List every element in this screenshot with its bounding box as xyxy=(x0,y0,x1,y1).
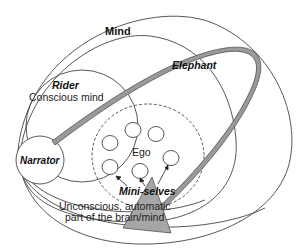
mind-model-diagram: Mind Elephant Rider Conscious mind Narra… xyxy=(0,0,304,248)
mini-self xyxy=(163,151,179,166)
mini-self xyxy=(125,123,141,138)
mini-self xyxy=(132,164,148,179)
mind-label: Mind xyxy=(105,25,131,37)
unconscious-label-line2: part of the brain/mind xyxy=(65,211,164,223)
rider-label: Rider xyxy=(52,79,80,91)
mini-selves-label: Mini-selves xyxy=(119,185,176,197)
elephant-label: Elephant xyxy=(172,59,217,71)
mini-self xyxy=(102,136,118,151)
mini-self xyxy=(102,160,118,175)
mini-self xyxy=(148,127,164,142)
ego-label: Ego xyxy=(132,146,151,158)
conscious-mind-label: Conscious mind xyxy=(29,91,104,103)
narrator-label: Narrator xyxy=(20,155,61,166)
